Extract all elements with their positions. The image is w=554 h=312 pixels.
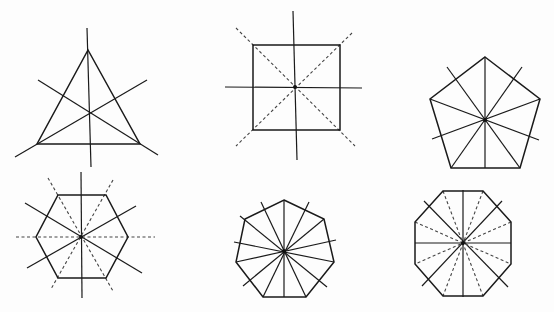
heptagon-center-point: [282, 249, 286, 253]
octagon-with-symmetry-lines: [415, 190, 511, 297]
pentagon-center-point: [483, 118, 487, 122]
symmetry-figure: [0, 0, 554, 312]
square-center-point: [293, 85, 297, 89]
hexagon-center-point: [79, 235, 83, 239]
octagon-center-point: [461, 241, 465, 245]
